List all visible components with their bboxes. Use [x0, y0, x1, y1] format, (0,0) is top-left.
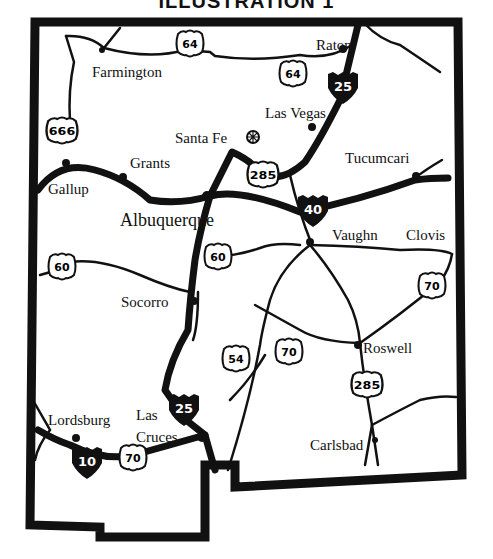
city-labels: Raton Farmington Las Vegas Santa Fe Gran…	[48, 37, 445, 453]
svg-text:64: 64	[285, 68, 301, 81]
us-route-shield-icon: 70	[120, 445, 147, 471]
capital-star-icon	[247, 131, 259, 143]
city-label: Vaughn	[332, 227, 378, 243]
us-route-shield-icon: 60	[205, 244, 232, 270]
city-label: Las Vegas	[265, 105, 326, 121]
city-label: Roswell	[363, 340, 412, 356]
us-route-shield-icon: 60	[49, 254, 76, 280]
interstate-shield-icon: 25	[169, 394, 199, 426]
city-label: Carlsbad	[310, 437, 364, 453]
interstate-shield-icon: 25	[328, 72, 358, 104]
city-label: Clovis	[406, 227, 445, 243]
city-label: Santa Fe	[175, 130, 227, 146]
us-route-shield-icon: 64	[177, 31, 204, 57]
svg-text:70: 70	[125, 452, 141, 465]
us-route-shield-icon: 285	[351, 372, 382, 398]
svg-text:70: 70	[281, 346, 297, 359]
city-label: Tucumcari	[345, 150, 409, 166]
new-mexico-road-map: Raton Farmington Las Vegas Santa Fe Gran…	[0, 0, 493, 559]
city-label: Raton	[316, 37, 352, 53]
svg-text:54: 54	[228, 353, 244, 366]
svg-text:25: 25	[334, 79, 352, 94]
us-route-shield-icon: 666	[46, 118, 77, 144]
svg-text:70: 70	[424, 280, 440, 293]
city-label: Socorro	[121, 294, 169, 310]
city-label: Farmington	[92, 64, 162, 80]
city-label: Las	[136, 407, 158, 423]
us-route-shield-icon: 285	[247, 162, 278, 188]
svg-text:10: 10	[78, 454, 96, 469]
us-route-shield-icon: 70	[276, 339, 303, 365]
city-label: Grants	[130, 155, 170, 171]
svg-text:60: 60	[210, 251, 226, 264]
city-label: Lordsburg	[48, 412, 111, 428]
svg-text:666: 666	[49, 125, 75, 138]
svg-text:285: 285	[250, 169, 276, 182]
svg-text:25: 25	[175, 401, 193, 416]
us-route-shield-icon: 54	[223, 346, 250, 372]
minor-roads	[34, 24, 456, 470]
city-label: Gallup	[48, 181, 89, 197]
svg-text:285: 285	[354, 379, 380, 392]
us-route-shield-icon: 64	[280, 61, 307, 87]
interstate-shield-icon: 10	[72, 447, 102, 479]
svg-text:60: 60	[54, 261, 70, 274]
city-label: Albuquerque	[120, 210, 214, 230]
svg-text:40: 40	[304, 202, 322, 217]
major-highways	[38, 25, 448, 470]
svg-text:64: 64	[182, 38, 198, 51]
us-route-shield-icon: 70	[419, 273, 446, 299]
city-label: Cruces	[136, 429, 178, 445]
